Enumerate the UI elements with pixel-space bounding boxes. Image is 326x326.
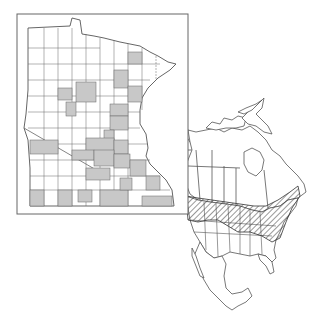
- distribution-figure: [0, 0, 326, 326]
- arctic-islands: [206, 116, 246, 130]
- minnesota-inset: [17, 14, 188, 214]
- map-canvas: [0, 0, 326, 326]
